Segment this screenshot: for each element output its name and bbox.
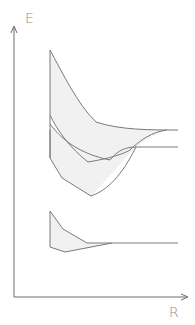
x-axis-label: R	[169, 304, 179, 320]
y-axis-label: E	[25, 10, 34, 26]
energy-band-diagram: E R	[0, 0, 195, 325]
lower-band-fill	[50, 211, 112, 252]
